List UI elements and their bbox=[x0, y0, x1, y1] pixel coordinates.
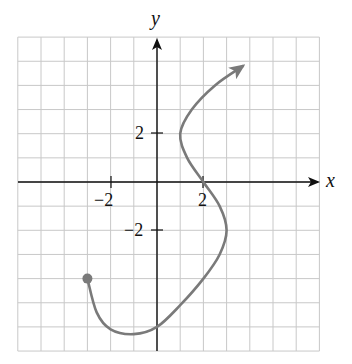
y-axis-label: y bbox=[149, 7, 160, 30]
start-point-dot bbox=[82, 274, 92, 284]
graph: −2 2 2 −2 x y bbox=[0, 0, 352, 364]
y-tick-label-2: 2 bbox=[135, 123, 144, 143]
grid-lines bbox=[18, 37, 320, 351]
x-axis-label: x bbox=[325, 169, 335, 191]
x-tick-label-2: 2 bbox=[198, 190, 207, 210]
x-tick-label-neg2: −2 bbox=[94, 190, 113, 210]
y-tick-label-neg2: −2 bbox=[124, 220, 143, 240]
